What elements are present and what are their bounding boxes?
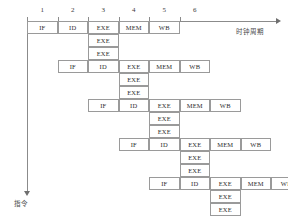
- instruction-4-stage-exe: EXE: [210, 177, 241, 190]
- instruction-4-stage-mem: MEM: [241, 177, 272, 190]
- instruction-4-stage-wb: WB: [271, 177, 288, 190]
- instruction-2-stage-mem: MEM: [180, 99, 211, 112]
- instruction-2-extra-exe-2: EXE: [149, 125, 180, 138]
- instruction-2-stage-exe: EXE: [149, 99, 180, 112]
- cycle-number-6: 6: [188, 6, 202, 14]
- cycle-tick-6: [180, 17, 181, 21]
- instruction-0-stage-mem: MEM: [119, 21, 150, 34]
- instruction-3-extra-exe-2: EXE: [180, 164, 211, 177]
- instruction-0-stage-id: ID: [58, 21, 89, 34]
- instruction-1-stage-mem: MEM: [149, 60, 180, 73]
- y-axis-line: [27, 21, 28, 193]
- cycle-number-3: 3: [96, 6, 110, 14]
- instruction-2-stage-if: IF: [88, 99, 119, 112]
- instruction-4-stage-if: IF: [149, 177, 180, 190]
- instruction-3-stage-exe: EXE: [180, 138, 211, 151]
- y-axis-arrowhead-icon: [24, 191, 30, 196]
- instruction-4-stage-id: ID: [180, 177, 211, 190]
- instruction-0-stage-exe: EXE: [88, 21, 119, 34]
- instruction-0-extra-exe-1: EXE: [88, 34, 119, 47]
- instruction-3-stage-id: ID: [149, 138, 180, 151]
- y-axis-label: 指令: [14, 198, 28, 208]
- instruction-2-stage-id: ID: [119, 99, 150, 112]
- instruction-1-extra-exe-1: EXE: [119, 73, 150, 86]
- cycle-number-2: 2: [66, 6, 80, 14]
- instruction-4-extra-exe-1: EXE: [210, 190, 241, 203]
- instruction-0-stage-if: IF: [27, 21, 58, 34]
- instruction-3-stage-wb: WB: [241, 138, 272, 151]
- instruction-2-stage-wb: WB: [210, 99, 241, 112]
- cycle-number-5: 5: [157, 6, 171, 14]
- instruction-1-stage-if: IF: [58, 60, 89, 73]
- x-axis-arrowhead-icon: [276, 18, 281, 24]
- instruction-1-stage-wb: WB: [180, 60, 211, 73]
- instruction-1-stage-exe: EXE: [119, 60, 150, 73]
- x-axis-label: 时钟周期: [236, 26, 264, 36]
- instruction-1-extra-exe-2: EXE: [119, 86, 150, 99]
- instruction-3-stage-if: IF: [119, 138, 150, 151]
- instruction-0-extra-exe-2: EXE: [88, 47, 119, 60]
- instruction-3-extra-exe-1: EXE: [180, 151, 211, 164]
- instruction-3-stage-mem: MEM: [210, 138, 241, 151]
- instruction-4-extra-exe-2: EXE: [210, 203, 241, 216]
- instruction-0-stage-wb: WB: [149, 21, 180, 34]
- pipeline-timing-diagram: 时钟周期 指令 123456 IFIDEXEMEMWBEXEEXEIFIDEXE…: [0, 0, 288, 220]
- cycle-number-1: 1: [35, 6, 49, 14]
- cycle-number-4: 4: [127, 6, 141, 14]
- instruction-1-stage-id: ID: [88, 60, 119, 73]
- instruction-2-extra-exe-1: EXE: [149, 112, 180, 125]
